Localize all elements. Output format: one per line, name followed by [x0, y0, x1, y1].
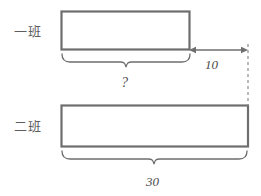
class-1-length-label: ? — [121, 76, 128, 90]
class-2-bar — [62, 106, 249, 147]
gap-arrow — [189, 47, 248, 53]
diagram-canvas: 一班 二班 ? 30 10 — [0, 0, 261, 196]
class-2-brace — [62, 151, 247, 164]
class-1-bar — [62, 12, 190, 50]
class-1-label: 一班 — [14, 25, 42, 38]
class-2-length-label: 30 — [146, 175, 159, 188]
class-2-label: 二班 — [14, 120, 42, 133]
class-1-brace — [62, 54, 190, 67]
gap-measure-label: 10 — [205, 58, 218, 71]
